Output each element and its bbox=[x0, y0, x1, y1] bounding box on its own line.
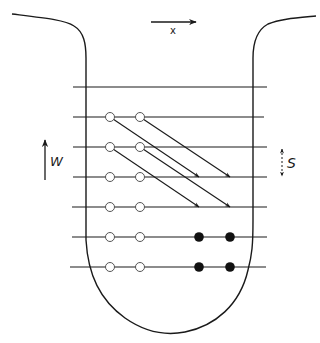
displacement-arrows bbox=[113, 119, 230, 207]
open-marker bbox=[136, 233, 145, 242]
vessel-outline bbox=[12, 14, 316, 333]
w-label: W bbox=[50, 154, 64, 169]
s-label: S bbox=[287, 155, 296, 171]
open-marker bbox=[106, 113, 115, 122]
layer-lines bbox=[70, 87, 267, 267]
filled-marker bbox=[225, 262, 235, 272]
filled-marker bbox=[225, 232, 235, 242]
open-marker bbox=[106, 203, 115, 212]
filled-marker bbox=[194, 262, 204, 272]
filled-markers bbox=[194, 232, 235, 272]
open-marker bbox=[106, 263, 115, 272]
x-label: x bbox=[170, 25, 176, 36]
open-marker bbox=[136, 173, 145, 182]
open-marker bbox=[106, 143, 115, 152]
diagram-canvas: x W S bbox=[0, 0, 320, 343]
open-marker bbox=[136, 203, 145, 212]
open-marker bbox=[106, 233, 115, 242]
filled-marker bbox=[194, 232, 204, 242]
open-marker bbox=[136, 143, 145, 152]
open-marker bbox=[136, 263, 145, 272]
open-marker bbox=[106, 173, 115, 182]
open-marker bbox=[136, 113, 145, 122]
